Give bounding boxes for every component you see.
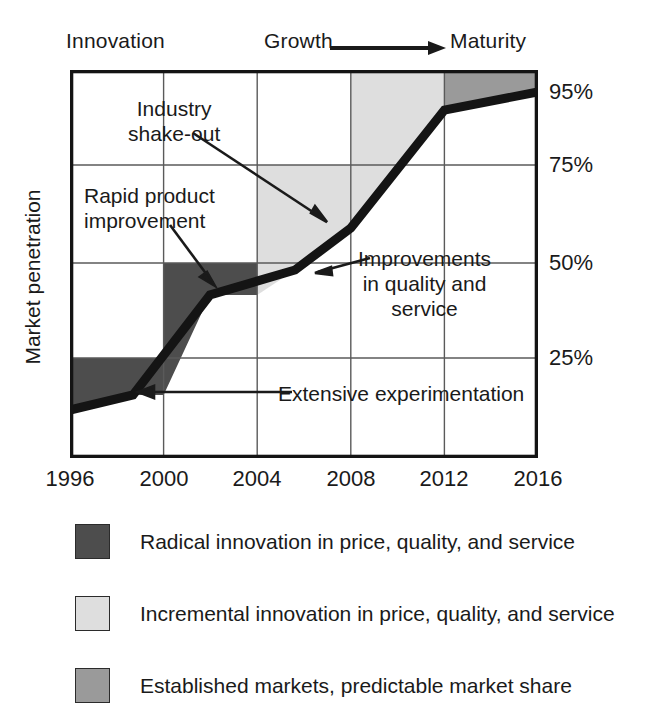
phase-label-maturity: Maturity <box>450 29 526 53</box>
phase-label-growth: Growth <box>264 29 333 53</box>
legend-swatch-established <box>75 668 110 703</box>
ytick-1: 75% <box>549 152 593 178</box>
right-arrow-icon <box>330 40 446 56</box>
ytick-3: 25% <box>549 345 593 371</box>
xtick-5: 2016 <box>514 466 563 492</box>
legend-label-incremental: Incremental innovation in price, quality… <box>140 602 615 626</box>
phase-label-innovation: Innovation <box>66 29 165 53</box>
legend: Radical innovation in price, quality, an… <box>70 518 670 725</box>
xtick-0: 1996 <box>46 466 95 492</box>
y-axis-label: Market penetration <box>21 162 45 392</box>
legend-label-established: Established markets, predictable market … <box>140 674 572 698</box>
ytick-0: 95% <box>549 79 593 105</box>
xtick-3: 2008 <box>327 466 376 492</box>
legend-label-radical: Radical innovation in price, quality, an… <box>140 530 575 554</box>
xtick-1: 2000 <box>140 466 189 492</box>
annotation-rapid-product-improvement: Rapid product improvement <box>84 183 215 233</box>
annotation-improvements-quality-service: Improvements in quality and service <box>358 246 491 321</box>
ytick-2: 50% <box>549 250 593 276</box>
legend-item-established: Established markets, predictable market … <box>70 662 670 709</box>
legend-swatch-radical <box>75 524 110 559</box>
annotation-extensive-experimentation: Extensive experimentation <box>278 381 524 406</box>
xtick-4: 2012 <box>420 466 469 492</box>
annotation-industry-shakeout: Industry shake-out <box>128 96 220 146</box>
legend-item-incremental: Incremental innovation in price, quality… <box>70 590 670 637</box>
legend-item-radical: Radical innovation in price, quality, an… <box>70 518 670 565</box>
legend-swatch-incremental <box>75 596 110 631</box>
xtick-2: 2004 <box>233 466 282 492</box>
chart-page: Innovation Growth Maturity Market penetr… <box>0 0 671 725</box>
